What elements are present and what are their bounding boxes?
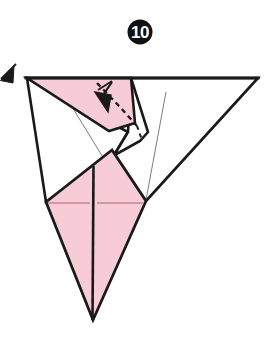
step-badge-label: 10	[131, 23, 149, 42]
step-number-badge: 10	[128, 20, 153, 45]
origami-canvas: 10	[0, 0, 271, 355]
origami-diagram-figure: 10	[0, 0, 271, 355]
crease-center-vertical	[93, 166, 94, 320]
